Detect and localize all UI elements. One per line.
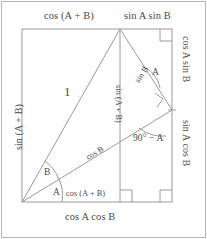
label-angle-ninety-minus-a: 90° − A xyxy=(133,134,163,144)
trigonometry-diagram: cos (A + B) sin A sin B sin (A + B) cos … xyxy=(0,0,207,239)
label-bottom-cos-a-cos-b: cos A cos B xyxy=(65,212,115,223)
label-right-sin-a-cos-b: sin A cos B xyxy=(181,120,191,166)
diagram-canvas xyxy=(0,0,207,239)
label-hypotenuse-one: 1 xyxy=(64,85,71,98)
label-top-sin-a-sin-b: sin A sin B xyxy=(124,11,171,22)
label-angle-a-vertex: A xyxy=(53,188,60,198)
label-top-cos-a-plus-b: cos (A + B) xyxy=(44,11,94,22)
label-vertical-sin-a-plus-b: sin (A + B) xyxy=(114,85,122,123)
label-left-sin-a-plus-b: sin (A + B) xyxy=(14,104,24,150)
label-angle-a-upper-right: A xyxy=(152,68,159,78)
label-inner-cos-a-plus-b: cos (A + B) xyxy=(66,190,105,198)
label-right-cos-a-sin-b: cos A sin B xyxy=(181,36,191,82)
label-angle-b-vertex: B xyxy=(44,168,50,178)
